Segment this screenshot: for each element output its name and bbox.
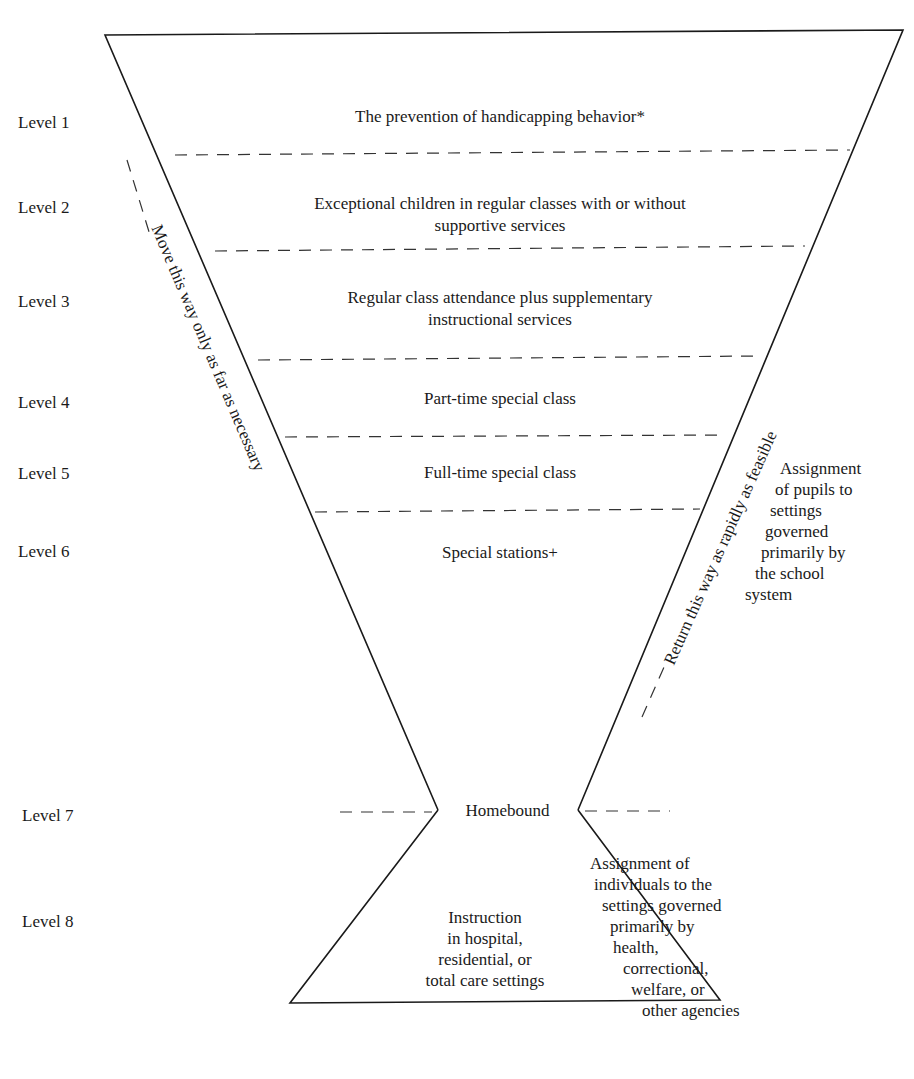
other-agencies-note: Assignment of individuals to the setting… [590, 853, 740, 1021]
level-1-text: The prevention of handicapping behavior* [200, 106, 800, 128]
divider-4-5 [285, 435, 725, 437]
level-6-label: Level 6 [18, 542, 69, 562]
level-3-text: Regular class attendance plus supplement… [200, 287, 800, 331]
divider-5-6 [315, 509, 700, 512]
level-2-text: Exceptional children in regular classes … [200, 193, 800, 237]
school-system-note: Assignment of pupils to settings governe… [740, 458, 861, 605]
level-8-text: Instructionin hospital,residential, orto… [385, 907, 585, 991]
level-1-label: Level 1 [18, 113, 69, 133]
level-3-label: Level 3 [18, 292, 69, 312]
divider-2-3 [215, 246, 805, 251]
level-2-label: Level 2 [18, 198, 69, 218]
arrow-left-dash [127, 160, 150, 235]
level-5-label: Level 5 [18, 464, 69, 484]
level-4-text: Part-time special class [200, 388, 800, 410]
level-8-label: Level 8 [22, 912, 73, 932]
divider-3-4 [258, 356, 760, 360]
divider-1-2 [175, 150, 850, 155]
level-7-label: Level 7 [22, 806, 73, 826]
level-7-text: Homebound [430, 800, 585, 822]
upper-funnel-outline [105, 30, 903, 810]
level-4-label: Level 4 [18, 393, 69, 413]
level-5-text: Full-time special class [200, 462, 800, 484]
arrow-right-dash [642, 665, 665, 717]
